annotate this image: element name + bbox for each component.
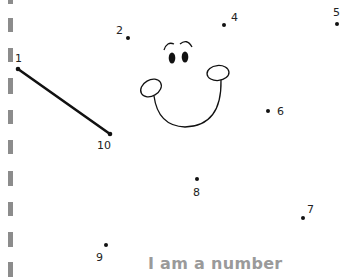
right-eyebrow [180, 42, 192, 47]
connecting-line [18, 69, 110, 134]
dot-label-1: 1 [15, 53, 22, 64]
dot-label-10: 10 [97, 140, 111, 151]
dot-8 [195, 177, 199, 181]
dot-7 [301, 216, 305, 220]
right-eye [182, 52, 189, 63]
worksheet-drawing [0, 0, 346, 277]
smile-curve [154, 80, 221, 127]
worksheet-caption: I am a number [148, 254, 282, 273]
dot-label-4: 4 [231, 12, 238, 23]
left-eyebrow [164, 43, 174, 50]
right-cheek [206, 65, 229, 82]
dot-9 [104, 243, 108, 247]
dot-1 [16, 67, 21, 72]
left-eye [169, 53, 176, 64]
dot-2 [126, 36, 130, 40]
dot-4 [222, 23, 226, 27]
smiley-face-drawing [137, 42, 229, 127]
dot-10 [108, 132, 113, 137]
dot-label-8: 8 [193, 187, 200, 198]
dot-label-2: 2 [116, 25, 123, 36]
left-cheek [137, 76, 164, 101]
dot-label-5: 5 [333, 7, 340, 18]
dashed-margin [8, 0, 13, 277]
dot-5 [335, 22, 339, 26]
dots [16, 22, 339, 247]
dot-label-9: 9 [96, 252, 103, 263]
dot-label-6: 6 [277, 106, 284, 117]
dot-6 [266, 109, 270, 113]
dot-label-7: 7 [307, 204, 314, 215]
dot-to-dot-worksheet: 1 2 4 5 6 7 8 9 10 I am a number [0, 0, 346, 277]
